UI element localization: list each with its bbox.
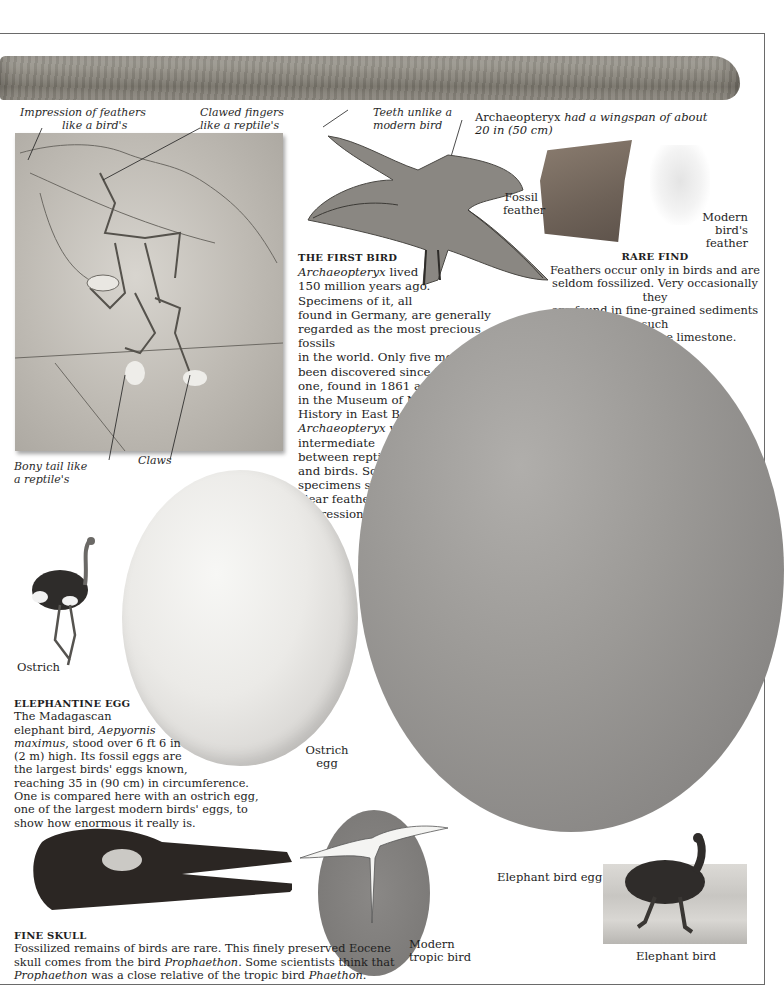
- prophaethon-skull-icon: [22, 822, 292, 914]
- ostrich-icon: [30, 535, 110, 675]
- label-elephant-bird: Elephant bird: [636, 950, 716, 963]
- first-bird-heading: THE FIRST BIRD: [298, 251, 498, 265]
- fine-skull-heading: FINE SKULL: [14, 929, 414, 942]
- label-ostrich-egg: Ostrich egg: [305, 744, 349, 770]
- label-teeth: Teeth unlike a modern bird: [373, 107, 452, 132]
- elephantine-egg-heading: ELEPHANTINE EGG: [14, 697, 334, 710]
- label-fossil-feather: Fossil feather: [503, 191, 538, 217]
- label-modern-feather: Modern bird's feather: [700, 211, 748, 250]
- tropic-bird-icon: [300, 818, 450, 928]
- rare-find-heading: RARE FIND: [545, 250, 765, 264]
- label-tropic-bird: Modern tropic bird: [409, 938, 471, 964]
- elephant-bird-egg-image: [358, 308, 784, 832]
- label-bony-tail: Bony tail like a reptile's: [14, 461, 87, 486]
- elephantine-egg-text: ELEPHANTINE EGG The Madagascan elephant …: [14, 697, 334, 830]
- label-claws: Claws: [138, 455, 172, 468]
- fine-skull-text: FINE SKULL Fossilized remains of birds a…: [14, 929, 414, 982]
- fossil-feather-image: [540, 140, 632, 242]
- label-elephant-bird-egg: Elephant bird egg: [497, 871, 602, 884]
- elephant-bird-icon: [610, 832, 720, 937]
- label-wingspan: Archaeopteryx had a wingspan of about 20…: [475, 111, 707, 137]
- label-ostrich: Ostrich: [17, 661, 60, 674]
